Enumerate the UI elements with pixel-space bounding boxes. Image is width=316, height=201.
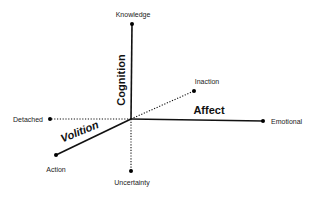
affect-axis-label: Affect xyxy=(193,104,225,116)
uncertainty-label: Uncertainty xyxy=(114,179,150,187)
affect-axis-positive xyxy=(131,119,263,121)
detached-label: Detached xyxy=(13,116,43,123)
uncertainty-dot xyxy=(129,169,133,173)
emotional-dot xyxy=(261,119,265,123)
action-label: Action xyxy=(46,166,66,173)
knowledge-label: Knowledge xyxy=(116,11,151,19)
inaction-label: Inaction xyxy=(195,78,220,85)
detached-dot xyxy=(48,117,52,121)
emotional-label: Emotional xyxy=(271,118,303,125)
cognition-axis-label: Cognition xyxy=(115,54,127,106)
axes-diagram: Knowledge Emotional Detached Action Inac… xyxy=(0,0,316,201)
inaction-dot xyxy=(192,89,196,93)
action-dot xyxy=(54,153,58,157)
volition-axis-negative xyxy=(131,91,194,119)
volition-axis-label: Volition xyxy=(59,118,101,144)
cognition-axis-positive xyxy=(131,24,132,119)
knowledge-dot xyxy=(130,22,134,26)
